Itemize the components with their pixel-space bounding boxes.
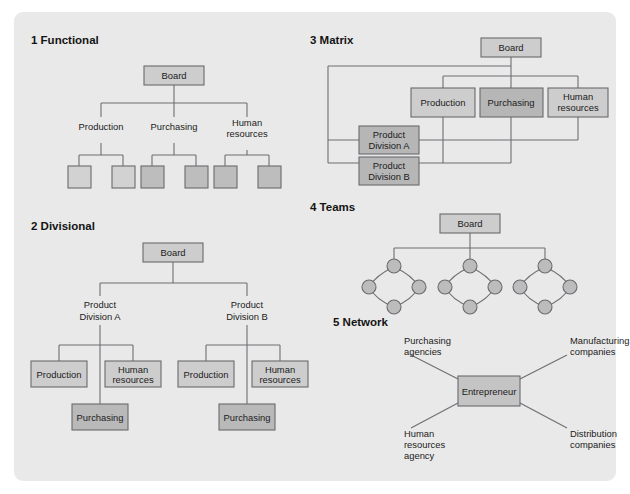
functional-leaf-unit-5[interactable] — [214, 166, 237, 188]
matrix-production-label: Production — [421, 97, 466, 108]
matrix-human-resources-label-line2: resources — [557, 102, 598, 113]
network-entrepreneur-label: Entrepreneur — [462, 386, 517, 397]
section-functional: 1 Functional — [31, 34, 281, 188]
divisional-b-purchasing-label: Purchasing — [224, 412, 271, 423]
divisional-a-production-node[interactable]: Production — [31, 361, 87, 387]
functional-production-label: Production — [79, 121, 124, 132]
matrix-division-b-node[interactable]: Product Division B — [359, 157, 419, 185]
figure-root: 1 Functional — [0, 0, 630, 494]
network-human-resources-agency-label-line1: Human — [404, 428, 434, 439]
functional-human-resources-label-line2: resources — [226, 128, 267, 139]
team-cluster-3[interactable] — [513, 259, 577, 314]
divisional-b-production-node[interactable]: Production — [178, 361, 234, 387]
functional-leaf-unit-6[interactable] — [258, 166, 281, 188]
teams-board-node[interactable]: Board — [440, 214, 500, 233]
team-1-member-top[interactable] — [387, 259, 401, 273]
functional-purchasing-label: Purchasing — [151, 121, 198, 132]
team-cluster-1[interactable] — [362, 259, 426, 314]
matrix-division-b-label-line2: Division B — [368, 171, 410, 182]
network-purchasing-agencies-label-line1: Purchasing — [404, 335, 451, 346]
divisional-division-b-label-line2: Division B — [226, 311, 268, 322]
matrix-board-label: Board — [498, 42, 523, 53]
functional-leaf-unit-2[interactable] — [112, 166, 135, 188]
network-human-resources-agency-label-line2: resources — [404, 439, 445, 450]
matrix-purchasing-node[interactable]: Purchasing — [480, 88, 543, 117]
divisional-a-human-resources-label-line2: resources — [112, 374, 153, 385]
divisional-division-b-label-line1: Product — [231, 299, 264, 310]
team-2-member-right[interactable] — [488, 280, 502, 294]
network-distribution-companies-label-line2: companies — [570, 439, 616, 450]
divisional-board-node[interactable]: Board — [143, 243, 203, 262]
matrix-division-b-label-line1: Product — [373, 160, 406, 171]
team-2-member-top[interactable] — [463, 259, 477, 273]
section-heading-network: 5 Network — [333, 316, 389, 328]
divisional-b-human-resources-node[interactable]: Human resources — [252, 361, 308, 387]
network-distribution-companies-label-line1: Distribution — [570, 428, 617, 439]
divisional-b-human-resources-label-line2: resources — [259, 374, 300, 385]
network-entrepreneur-node[interactable]: Entrepreneur — [458, 376, 520, 406]
section-heading-matrix: 3 Matrix — [310, 34, 354, 46]
functional-board-node[interactable]: Board — [144, 66, 204, 85]
team-2-member-bottom[interactable] — [463, 300, 477, 314]
matrix-human-resources-node[interactable]: Human resources — [548, 88, 608, 117]
divisional-b-production-label: Production — [184, 369, 229, 380]
team-2-member-left[interactable] — [438, 280, 452, 294]
team-cluster-2[interactable] — [438, 259, 502, 314]
team-1-member-left[interactable] — [362, 280, 376, 294]
section-network: 5 Network Entrepreneur Purchasing agenci… — [333, 316, 629, 461]
matrix-production-node[interactable]: Production — [411, 88, 475, 117]
divisional-a-purchasing-node[interactable]: Purchasing — [72, 404, 128, 430]
functional-leaf-unit-3[interactable] — [141, 166, 164, 188]
matrix-division-a-node[interactable]: Product Division A — [359, 126, 419, 154]
matrix-purchasing-label: Purchasing — [488, 97, 535, 108]
functional-leaf-unit-1[interactable] — [68, 166, 91, 188]
matrix-division-a-label-line1: Product — [373, 129, 406, 140]
team-3-member-bottom[interactable] — [538, 300, 552, 314]
network-human-resources-agency-label-line3: agency — [404, 450, 435, 461]
teams-board-label: Board — [457, 218, 482, 229]
divisional-division-a-label-line2: Division A — [79, 311, 121, 322]
section-heading-teams: 4 Teams — [310, 201, 355, 213]
section-heading-divisional: 2 Divisional — [31, 220, 95, 232]
matrix-division-a-label-line2: Division A — [368, 140, 410, 151]
network-manufacturing-companies-label-line2: companies — [570, 346, 616, 357]
divisional-b-purchasing-node[interactable]: Purchasing — [219, 404, 275, 430]
divisional-division-a-label-line1: Product — [84, 299, 117, 310]
functional-leaf-unit-4[interactable] — [185, 166, 208, 188]
divisional-board-label: Board — [160, 247, 185, 258]
divisional-connectors — [59, 262, 280, 416]
team-1-member-bottom[interactable] — [387, 300, 401, 314]
team-3-member-top[interactable] — [538, 259, 552, 273]
section-teams: 4 Teams Board — [310, 201, 577, 314]
network-purchasing-agencies-label-line2: agencies — [404, 346, 442, 357]
functional-human-resources-label-line1: Human — [232, 117, 262, 128]
matrix-human-resources-label-line1: Human — [563, 91, 593, 102]
section-matrix: 3 Matrix — [310, 34, 608, 185]
section-divisional: 2 Divisional Board — [31, 220, 308, 430]
team-3-member-left[interactable] — [513, 280, 527, 294]
divisional-a-purchasing-label: Purchasing — [77, 412, 124, 423]
matrix-board-node[interactable]: Board — [481, 38, 541, 57]
divisional-a-production-label: Production — [37, 369, 82, 380]
teams-connectors — [394, 233, 545, 261]
organisational-structures-diagram: 1 Functional — [0, 0, 630, 494]
functional-board-label: Board — [161, 70, 186, 81]
team-1-member-right[interactable] — [412, 280, 426, 294]
divisional-a-human-resources-node[interactable]: Human resources — [105, 361, 161, 387]
network-manufacturing-companies-label-line1: Manufacturing — [570, 335, 629, 346]
team-3-member-right[interactable] — [563, 280, 577, 294]
section-heading-functional: 1 Functional — [31, 34, 99, 46]
